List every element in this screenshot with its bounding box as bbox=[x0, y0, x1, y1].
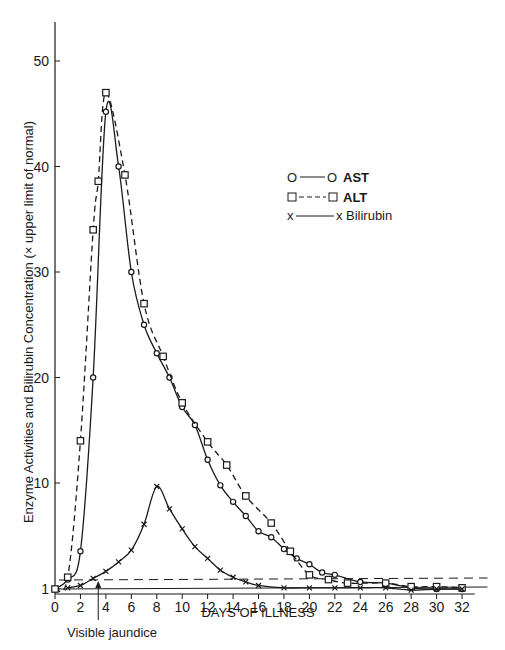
alt-point-marker bbox=[77, 438, 83, 444]
bilirubin-point-marker bbox=[218, 568, 223, 573]
alt-point-marker bbox=[90, 227, 96, 233]
bilirubin-point-marker bbox=[103, 569, 108, 574]
alt-point-marker bbox=[243, 493, 249, 499]
ast-point-marker bbox=[141, 322, 146, 327]
alt-point-marker bbox=[204, 439, 210, 445]
alt-point-marker bbox=[459, 585, 465, 591]
alt-point-marker bbox=[103, 89, 109, 95]
x-tick-label: 30 bbox=[429, 599, 445, 615]
alt-point-marker bbox=[141, 300, 147, 306]
x-tick-label: 22 bbox=[327, 599, 343, 615]
ast-curve bbox=[55, 101, 462, 589]
alt-point-marker bbox=[122, 172, 128, 178]
ast-point-marker bbox=[281, 546, 286, 551]
ast-point-marker bbox=[243, 513, 248, 518]
alt-point-marker bbox=[179, 400, 185, 406]
alt-point-marker bbox=[268, 520, 274, 526]
alt-point-marker bbox=[65, 574, 71, 580]
ast-point-marker bbox=[103, 109, 108, 114]
chart: 0246810121416182022242628303211020304050… bbox=[0, 0, 505, 650]
legend-alt-label: ALT bbox=[343, 190, 367, 205]
x-tick-label: 4 bbox=[102, 599, 110, 615]
x-tick-label: 2 bbox=[77, 599, 85, 615]
legend-alt-marker-right bbox=[329, 193, 337, 201]
ast-point-marker bbox=[116, 164, 121, 169]
alt-point-marker bbox=[287, 548, 293, 554]
ast-point-marker bbox=[154, 351, 159, 356]
ast-point-marker bbox=[129, 269, 134, 274]
alt-point-marker bbox=[160, 353, 166, 359]
bilirubin-point-marker bbox=[116, 559, 121, 564]
bilirubin-point-marker bbox=[129, 548, 134, 553]
x-tick-label: 24 bbox=[352, 599, 368, 615]
x-tick-label: 28 bbox=[403, 599, 419, 615]
x-tick-label: 6 bbox=[127, 599, 135, 615]
x-tick-label: 10 bbox=[174, 599, 190, 615]
legend-bili-label: Bilirubin bbox=[346, 208, 392, 223]
series-layer bbox=[52, 89, 465, 592]
bilirubin-point-marker bbox=[205, 556, 210, 561]
ast-point-marker bbox=[218, 483, 223, 488]
x-tick-label: 26 bbox=[378, 599, 394, 615]
bilirubin-point-marker bbox=[192, 544, 197, 549]
legend-ast-label: AST bbox=[343, 170, 369, 185]
alt-point-marker bbox=[325, 576, 331, 582]
ast-point-marker bbox=[307, 562, 312, 567]
series-alt bbox=[52, 89, 465, 592]
alt-point-marker bbox=[95, 178, 101, 184]
reference-dashed-line bbox=[59, 578, 487, 580]
ast-point-marker bbox=[320, 570, 325, 575]
jaundice-arrow-head bbox=[95, 581, 101, 588]
y-tick-label: 1 bbox=[41, 581, 49, 597]
y-tick-label: 50 bbox=[33, 53, 49, 69]
ast-point-marker bbox=[78, 549, 83, 554]
x-tick-label: 8 bbox=[153, 599, 161, 615]
ast-point-marker bbox=[256, 529, 261, 534]
ast-point-marker bbox=[332, 572, 337, 577]
visible-jaundice-annotation: Visible jaundice bbox=[67, 625, 157, 640]
legend-ast-marker-left: O bbox=[287, 170, 297, 185]
legend-bili-marker-right: x bbox=[336, 208, 343, 223]
alt-point-marker bbox=[224, 462, 230, 468]
ast-point-marker bbox=[230, 499, 235, 504]
alt-point-marker bbox=[408, 583, 414, 589]
series-ast bbox=[52, 101, 464, 591]
ast-point-marker bbox=[269, 535, 274, 540]
legend-ast-marker-right: O bbox=[327, 170, 337, 185]
series-bilirubin bbox=[65, 484, 464, 593]
legend-bili-marker-left: x bbox=[287, 208, 294, 223]
ast-point-marker bbox=[91, 375, 96, 380]
x-tick-label: 32 bbox=[454, 599, 470, 615]
bilirubin-curve bbox=[68, 486, 462, 590]
bilirubin-point-marker bbox=[231, 575, 236, 580]
ast-point-marker bbox=[205, 457, 210, 462]
alt-point-marker bbox=[306, 572, 312, 578]
alt-point-marker bbox=[344, 580, 350, 586]
bilirubin-point-marker bbox=[180, 526, 185, 531]
legend-alt-marker-left bbox=[288, 193, 296, 201]
legend: O O AST ALT x x Bilirubin bbox=[287, 170, 392, 223]
x-axis-title: DAYS OF ILLNESS bbox=[201, 605, 315, 620]
y-axis-title: Enzyme Activities and Bilirubin Concentr… bbox=[21, 121, 36, 523]
x-tick-label: 0 bbox=[51, 599, 59, 615]
bilirubin-point-marker bbox=[167, 506, 172, 511]
alt-point-marker bbox=[52, 586, 58, 592]
